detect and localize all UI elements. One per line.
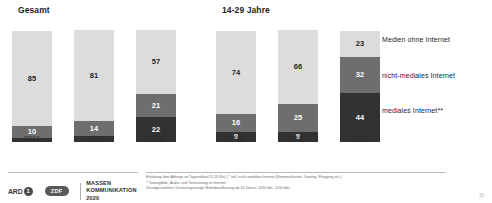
bar-value-label: 14: [90, 125, 99, 133]
bar-value-label: 74: [232, 69, 241, 77]
brand-line-2: KOMMUNIKATION: [86, 187, 136, 194]
slide-canvas: Gesamt 14-29 Jahre 851020108114520155721…: [0, 0, 492, 203]
bar-stack-2020[interactable]: 572122: [136, 30, 176, 142]
bar-value-label: 21: [152, 102, 161, 110]
legend-swatch-icon: [374, 109, 379, 114]
bar-stack-2010[interactable]: 8510: [12, 31, 52, 142]
footnote-line-3: Grundgesamtheit: Deutschsprachige Wohnbe…: [146, 186, 446, 192]
legend-swatch-icon: [374, 73, 379, 78]
bar-segment-2010-1[interactable]: 16: [216, 114, 256, 132]
brand-divider: [80, 183, 81, 200]
bar-value-label: 16: [232, 119, 241, 127]
bar-value-label: 25: [294, 114, 303, 122]
page-number: 36: [479, 193, 484, 198]
bar-segment-2020-0[interactable]: 57: [136, 30, 176, 94]
ard-logo: ARD 1: [8, 187, 33, 196]
bar-stack-2010[interactable]: 74169: [216, 31, 256, 142]
chart-title-14-29-jahre: 14-29 Jahre: [222, 5, 270, 15]
legend-item-mediales-internet[interactable]: mediales Internet**: [374, 107, 488, 115]
legend-item-nicht-mediales-internet[interactable]: nicht-mediales Internet: [374, 72, 488, 80]
ard-one-icon: 1: [24, 187, 33, 196]
legend-label: mediales Internet**: [382, 107, 443, 115]
legend-label: Medien ohne Internet: [382, 36, 450, 44]
footer-divider: [8, 172, 138, 173]
brand-title: MASSEN KOMMUNIKATION 2020: [86, 180, 136, 202]
bar-segment-2015-0[interactable]: 66: [278, 30, 318, 104]
bar-value-label: 23: [356, 40, 365, 48]
bar-value-label: 57: [152, 58, 161, 66]
footer-logo-bar: ARD 1 ZDF MASSEN KOMMUNIKATION 2020: [8, 180, 137, 202]
x-axis-label-2015: 2015: [74, 135, 114, 142]
bar-value-label: 66: [294, 63, 303, 71]
chart-title-gesamt: Gesamt: [18, 5, 50, 15]
bar-segment-2020-1[interactable]: 21: [136, 94, 176, 118]
legend-item-medien-ohne-internet[interactable]: Medien ohne Internet: [374, 36, 488, 44]
bar-segment-2010-0[interactable]: 85: [12, 31, 52, 126]
x-axis-label-2010: 2010: [216, 135, 256, 142]
ard-logo-text: ARD: [8, 188, 23, 195]
legend-label: nicht-mediales Internet: [382, 72, 455, 80]
brand-line-3: 2020: [86, 195, 136, 202]
legend-swatch-icon: [374, 38, 379, 43]
x-axis-label-2020: 2020: [136, 135, 176, 142]
bar-value-label: 85: [28, 75, 37, 83]
bar-stack-2015[interactable]: 81145: [74, 30, 114, 142]
bar-segment-2015-1[interactable]: 25: [278, 104, 318, 132]
bar-value-label: 32: [356, 71, 365, 79]
x-axis-label-2015: 2015: [278, 135, 318, 142]
brand-line-1: MASSEN: [86, 180, 136, 187]
chart-gesamt: 851020108114520155721222020: [12, 22, 202, 156]
x-axis-label-2010: 2010: [12, 135, 52, 142]
bar-value-label: 44: [356, 114, 365, 122]
zdf-logo: ZDF: [45, 186, 69, 196]
footnote-block: Erhebung über Abfrage an Tagesablauf (5.…: [146, 172, 446, 192]
bar-segment-2010-0[interactable]: 74: [216, 31, 256, 114]
chart-legend: Medien ohne Internetnicht-mediales Inter…: [374, 36, 488, 143]
bar-stack-2015[interactable]: 66259: [278, 30, 318, 142]
bar-value-label: 81: [90, 72, 99, 80]
chart-14-29-jahre: 7416920106625920152332442020: [216, 22, 366, 156]
bar-value-label: 22: [152, 126, 161, 134]
bar-segment-2015-0[interactable]: 81: [74, 30, 114, 121]
